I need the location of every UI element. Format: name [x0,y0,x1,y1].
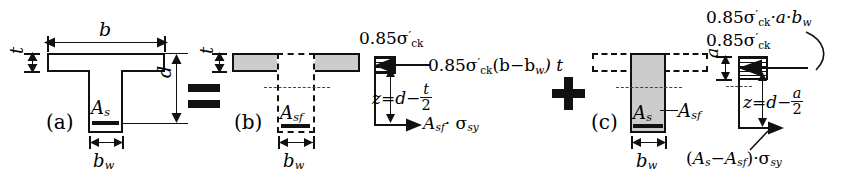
stress-block-b: 0.85σ′ck 0.85σ′ck(b−bw) t z=d−t2 [330,0,545,183]
la-c-d: d [766,92,777,112]
la-c-num: a [791,86,802,101]
cf-b-sub2: w [535,64,544,76]
rebar-a [92,121,119,125]
dim-arrow-bw-a-right [111,137,123,148]
label-b: b [99,20,111,39]
stress-b-tension-arrowhead [404,118,422,132]
label-tension-force-c: (sAs−Asf)·σsy [686,150,782,168]
dim-arrow-d-up [170,54,183,65]
label-bw-c: bw [636,152,657,172]
la-c-den: 2 [791,101,802,117]
tf-c-asf-sub: sf [737,156,747,168]
label-085-sigma-ck-b-main: 0.85σ [359,28,408,48]
dim-tick-b-left [47,36,49,52]
label-resultant-c: 0.85σ′ck·a·bw [706,7,812,28]
figure-canvas: b t d As [0,0,861,183]
label-as-a-sub: s [104,106,110,119]
la-c-z: z [743,92,752,112]
label-as-c-main: A [633,102,646,123]
cf-b-sub: ck [480,64,492,76]
label-compression-force-b: 0.85σ′ck(b−bw) t [428,55,563,76]
dim-arrow-bw-a-left [90,137,102,148]
la-b-z: z [372,88,381,108]
dim-arrow-t-up [26,52,39,62]
tf-b-sub2: sy [467,121,479,133]
la-c-eq: = [752,92,766,112]
label-as-c: As [633,104,652,124]
dim-arrow-a-down [720,71,731,81]
dim-arrow-d-down [170,112,183,123]
label-a-depth: a [704,48,721,58]
rc-p1: 0.85σ [706,7,755,27]
caption-a: (a) [46,110,74,134]
cf-b-p2: (b−b [492,55,535,75]
dim-ext-d-bot [122,123,188,124]
label-085-sigma-ck-c-sub: ck [758,39,770,51]
rebar-b [281,124,310,128]
tf-c-open: ( [686,148,693,168]
dim-arrow-t-b-down [213,63,226,73]
label-bw-b-sub: w [295,159,305,172]
la-c-frac: a2 [791,86,802,117]
la-b-num: t [420,82,431,97]
dim-arrow-bw-c-left [632,137,644,148]
caption-c: (c) [591,110,618,134]
la-b-frac: t2 [420,82,431,113]
label-085-sigma-ck-b-sub: ck [411,37,423,49]
rc-p2: ·a·b [770,7,802,27]
label-085-sigma-ck-b: 0.85σ′ck [359,28,423,49]
label-bw-c-sub: w [648,159,658,172]
label-bw-b: bw [283,152,304,172]
cf-b-p1: 0.85σ [428,55,477,75]
label-d: d [155,66,174,78]
label-lever-arm-b: z=d−t2 [372,82,432,113]
dim-arrow-bw-b-right [301,137,313,148]
label-as-c-sub: s [646,111,652,124]
label-asf-b-sub: sf [293,111,303,124]
operator-equals [188,84,220,108]
dim-arrow-b-right [154,36,168,49]
lever-arm-b-arrow-up [385,68,396,78]
dim-arrow-bw-b-left [279,137,291,148]
label-as-a: As [91,99,110,119]
tf-b-dot: · σ [445,113,467,133]
label-t-b: t [198,47,216,54]
stress-c-compression-leader [760,67,808,69]
tf-c-as-main: A [693,148,705,168]
la-b-den: 2 [420,97,431,113]
label-bw-a: bw [93,152,114,172]
tf-c-dot-sub: sy [770,156,782,168]
label-as-a-main: A [91,97,104,118]
rebar-c [633,124,663,128]
panel-a: b t d As [0,0,190,183]
caption-b: (b) [234,110,262,134]
stress-block-c: 0.85σ′ck·a·bw 0.85σ′ck a [690,0,861,183]
label-asf-c-leader [660,110,678,111]
label-tension-force-b: Asf· σsy [423,115,479,133]
label-bw-b-main: b [283,150,295,171]
section-b-flange-left [232,53,279,72]
equals-bar-top [188,84,220,92]
label-lever-arm-c: z=d−a2 [743,86,803,117]
label-asf-b: Asf [280,104,303,124]
tf-c-minus: − [711,148,725,168]
lever-arm-c-arrow-up [757,72,768,82]
stress-b-compression-leader [392,64,430,66]
curved-leader-c [800,30,860,72]
cf-b-p3: ) t [544,55,563,75]
label-bw-c-main: b [636,150,648,171]
rc-sub2: w [802,16,811,28]
centerline-b [264,87,330,88]
operator-plus [552,77,585,110]
tf-c-asf-main: A [725,148,737,168]
tf-c-dot: ·σ [753,148,770,168]
dim-tick-bw-b-right [313,136,315,149]
label-bw-a-sub: w [105,159,115,172]
tf-b-a: A [423,113,435,133]
label-asf-b-main: A [280,102,293,123]
la-c-minus: − [777,92,791,112]
label-bw-a-main: b [93,150,105,171]
equals-bar-bottom [188,100,220,108]
la-b-d: d [395,88,406,108]
tf-b-sub: sf [435,121,445,133]
